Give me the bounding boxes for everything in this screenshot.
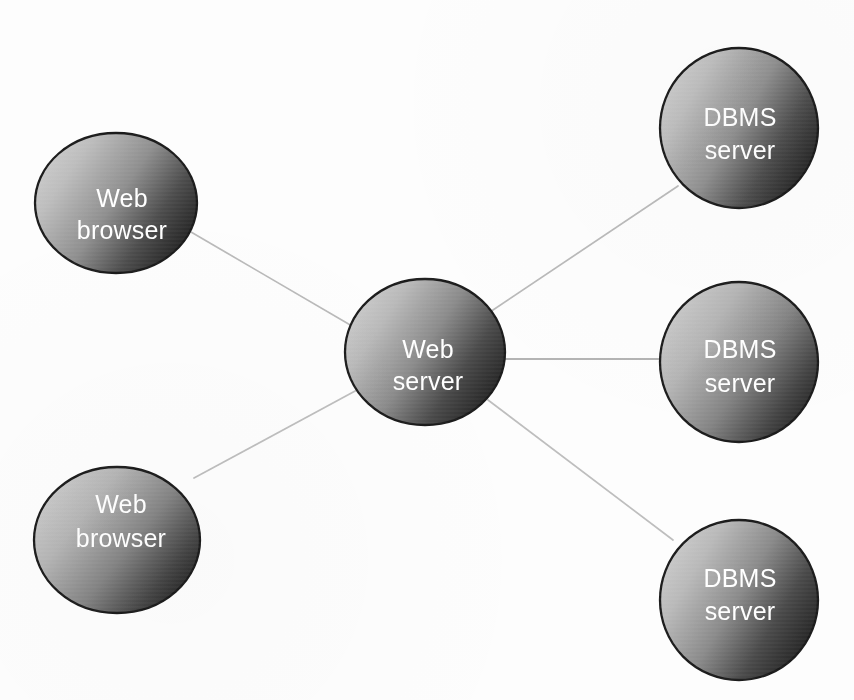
architecture-diagram: Web browser Web browser Web server DBMS … (0, 0, 854, 700)
node-label-line2: server (705, 597, 776, 625)
edge-browser-bottom-to-web-server (194, 390, 357, 478)
node-label-line1: DBMS (703, 103, 776, 131)
edge-browser-top-to-web-server (191, 232, 352, 326)
node-web-server[interactable]: Web server (345, 279, 505, 425)
node-label-line2: server (705, 136, 776, 164)
node-label-line1: DBMS (703, 335, 776, 363)
node-label-line2: browser (77, 216, 167, 244)
node-dbms-server-middle[interactable]: DBMS server (660, 282, 818, 442)
node-label-line1: Web (402, 335, 454, 363)
node-label-line1: Web (96, 184, 148, 212)
node-label-line1: DBMS (703, 564, 776, 592)
node-label-line2: server (705, 369, 776, 397)
diagram-canvas: Web browser Web browser Web server DBMS … (0, 0, 854, 700)
node-dbms-server-top[interactable]: DBMS server (660, 48, 818, 208)
edge-web-server-to-dbms-bottom (488, 400, 673, 540)
node-label-line2: browser (76, 524, 166, 552)
edge-web-server-to-dbms-top (490, 186, 678, 312)
node-label-line2: server (393, 367, 464, 395)
node-label-line1: Web (95, 490, 147, 518)
node-dbms-server-bottom[interactable]: DBMS server (660, 520, 818, 680)
node-web-browser-bottom[interactable]: Web browser (34, 467, 200, 613)
node-web-browser-top[interactable]: Web browser (35, 133, 197, 273)
